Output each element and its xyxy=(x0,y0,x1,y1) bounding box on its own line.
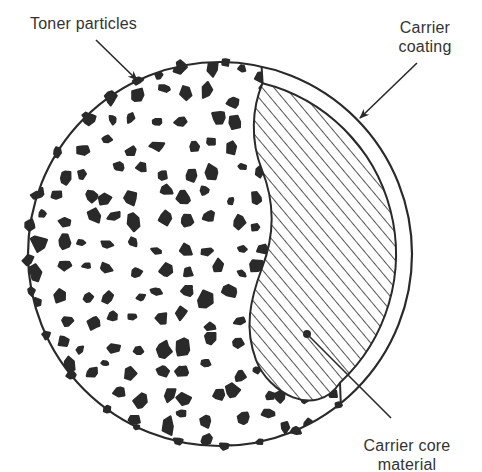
toner-particle xyxy=(102,136,112,143)
toner-particle xyxy=(201,187,209,195)
toner-particle xyxy=(202,434,212,445)
toner-particle xyxy=(176,307,187,321)
toner-particle xyxy=(159,85,170,92)
toner-particle xyxy=(282,422,290,433)
toner-particle xyxy=(107,212,119,219)
toner-particle xyxy=(56,410,66,419)
toner-particle xyxy=(84,293,93,302)
toner-particle xyxy=(136,163,146,171)
toner-particle xyxy=(157,366,169,376)
toner-particle xyxy=(207,139,215,145)
toner-particle xyxy=(236,371,246,381)
toner-particle xyxy=(83,440,93,448)
toner-particles-label: Toner particles xyxy=(30,14,137,33)
toner-particle xyxy=(39,210,45,216)
toner-particle xyxy=(55,64,65,72)
toner-particle xyxy=(177,411,186,417)
toner-particle xyxy=(177,191,190,203)
toner-particle xyxy=(60,234,71,249)
toner-particle xyxy=(252,224,259,230)
toner-particle xyxy=(334,414,348,425)
toner-particle xyxy=(133,393,146,408)
toner-particle xyxy=(187,170,197,182)
carrier-coating-text-line1: Carrier xyxy=(388,18,462,37)
toner-particle xyxy=(239,164,246,169)
toner-particle xyxy=(77,146,89,155)
toner-particle xyxy=(233,339,244,348)
toner-particle xyxy=(159,171,167,179)
toner-particle xyxy=(128,213,140,231)
toner-particle xyxy=(78,394,89,404)
toner-particle xyxy=(305,435,320,447)
toner-particle xyxy=(161,185,173,194)
toner-particle xyxy=(151,289,162,295)
toner-particle xyxy=(42,332,50,340)
toner-particle xyxy=(31,192,42,199)
toner-particle xyxy=(153,119,161,125)
toner-particle xyxy=(108,312,117,321)
toner-particle xyxy=(157,341,172,358)
toner-particle xyxy=(184,268,193,277)
toner-particle xyxy=(336,402,342,407)
toner-particle xyxy=(66,372,75,379)
toner-particle xyxy=(77,240,85,245)
toner-particle xyxy=(227,98,239,108)
carrier-coating-text-line2: coating xyxy=(388,37,462,56)
toner-particle xyxy=(202,249,213,256)
toner-particle xyxy=(177,60,187,72)
toner-particle xyxy=(160,444,167,452)
toner-particle xyxy=(38,433,52,445)
toner-particle xyxy=(238,271,246,277)
toner-particle xyxy=(58,437,67,443)
toner-particle xyxy=(37,412,44,418)
toner-particle xyxy=(102,291,113,303)
toner-particle xyxy=(25,314,36,330)
toner-particle xyxy=(238,65,245,71)
toner-particle xyxy=(203,211,214,221)
toner-particle xyxy=(52,192,62,199)
toner-particle xyxy=(23,255,34,265)
toner-particle xyxy=(34,373,41,381)
toner-particle xyxy=(132,268,142,277)
toner-particle xyxy=(238,246,247,252)
toner-particle xyxy=(181,286,192,296)
toner-particle xyxy=(129,315,137,320)
toner-particle xyxy=(176,393,191,405)
toner-particle xyxy=(212,112,224,124)
carrier-coating-label: Carrier coating xyxy=(388,18,462,56)
toner-particle xyxy=(87,368,97,377)
toner-particle xyxy=(134,347,143,354)
toner-particle xyxy=(226,383,240,397)
toner-particle xyxy=(30,264,42,281)
toner-particle xyxy=(99,194,112,205)
toner-particle xyxy=(205,323,216,330)
toner-particle xyxy=(108,344,121,352)
toner-particle xyxy=(54,147,61,157)
toner-particle xyxy=(61,172,70,185)
toner-particle xyxy=(234,318,245,325)
toner-particle xyxy=(177,338,189,355)
toner-particle xyxy=(230,116,241,129)
toner-particle xyxy=(257,440,263,444)
toner-particle xyxy=(102,242,114,248)
toner-particle xyxy=(222,285,236,297)
toner-particle xyxy=(59,337,69,347)
toner-particle xyxy=(126,147,136,155)
toner-particle xyxy=(175,367,188,376)
toner-particle xyxy=(105,91,117,102)
toner-particle xyxy=(234,215,245,229)
carrier-core-region xyxy=(249,83,396,400)
toner-particle xyxy=(201,360,210,366)
carrier-core-label: Carrier core material xyxy=(350,436,464,472)
toner-particle xyxy=(339,437,349,445)
carrier-core-leader-dot xyxy=(303,330,311,338)
toner-particle xyxy=(151,248,161,253)
toner-particle xyxy=(86,191,97,202)
toner-particle xyxy=(266,392,274,399)
toner-particle xyxy=(28,287,35,296)
toner-particle xyxy=(174,439,183,445)
toner-particle xyxy=(198,291,213,308)
toner-particle xyxy=(32,393,40,401)
carrier-coating-arrow xyxy=(360,63,417,118)
toner-particle xyxy=(174,118,186,126)
